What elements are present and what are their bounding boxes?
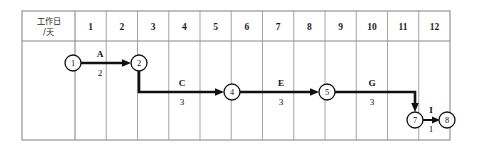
activity-A-name: A [97,49,104,59]
corner-header-line1: 工作日 [37,16,61,26]
day-header-12: 12 [430,22,440,32]
arrowhead-C [215,88,224,96]
diagram-canvas: 工作日 /天 1 2 3 4 5 6 7 8 9 10 11 12 [0,0,478,151]
day-header-11: 11 [399,22,408,32]
activity-C-name: C [179,78,186,88]
node-5[interactable]: 5 [319,84,335,100]
activity-E-name: E [278,78,284,88]
arrowhead-A [122,59,131,67]
node-5-label: 5 [325,88,329,97]
day-header-3: 3 [151,22,156,32]
edge-G [335,92,415,105]
activity-G-duration: 3 [370,97,375,107]
network-diagram-svg: 工作日 /天 1 2 3 4 5 6 7 8 9 10 11 12 [0,0,478,151]
day-header-7: 7 [276,22,281,32]
day-header-4: 4 [182,22,187,32]
arrowhead-E [310,88,319,96]
node-2-label: 2 [137,59,141,68]
day-header-5: 5 [213,22,218,32]
node-1[interactable]: 1 [65,55,81,71]
day-header-8: 8 [307,22,312,32]
node-7[interactable]: 7 [407,112,423,128]
node-1-label: 1 [71,59,75,68]
activity-C-duration: 3 [180,97,185,107]
activity-I-duration: 1 [429,124,434,134]
arrowhead-G [411,103,419,112]
node-2[interactable]: 2 [131,55,147,71]
node-4[interactable]: 4 [224,84,240,100]
node-7-label: 7 [413,116,417,125]
node-8[interactable]: 8 [439,112,455,128]
day-header-9: 9 [338,22,343,32]
table-header-row: 工作日 /天 1 2 3 4 5 6 7 8 9 10 11 12 [37,16,440,37]
activity-E-duration: 3 [279,97,284,107]
corner-header-line2: /天 [43,27,54,37]
node-8-label: 8 [445,116,449,125]
activity-I-name: I [429,105,433,115]
day-header-10: 10 [367,22,377,32]
day-header-2: 2 [120,22,125,32]
table-grid [22,11,450,140]
day-header-6: 6 [245,22,250,32]
table-outer-border [22,11,450,140]
activity-G-name: G [368,78,375,88]
activity-A-duration: 2 [98,68,103,78]
day-header-1: 1 [88,22,93,32]
